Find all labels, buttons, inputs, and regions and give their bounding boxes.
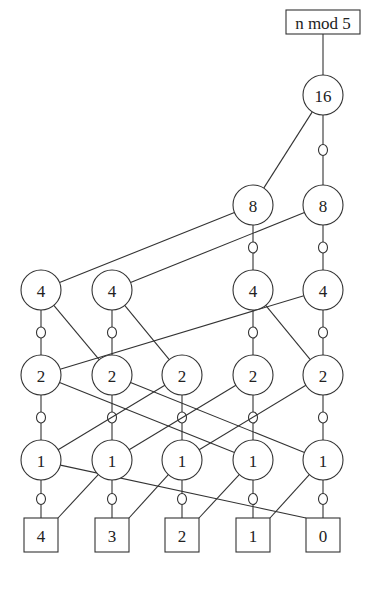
node-label: 1 [249,452,258,471]
n-mod-5-box: n mod 5 [286,10,360,34]
level-8-node-col3: 8 [233,185,273,225]
node-label: 1 [249,527,258,546]
negation-marker-icon [249,494,258,505]
negation-marker-icon [319,327,328,338]
node-label: 4 [108,282,117,301]
output-box-0: 0 [306,518,340,552]
then-edge [131,382,305,452]
node-label: 4 [319,282,328,301]
output-box-3: 3 [95,518,129,552]
node-label: 16 [315,87,332,106]
negation-marker-icon [319,242,328,253]
node-label: 0 [319,527,328,546]
negation-marker-icon [178,494,187,505]
node-label: 2 [108,367,117,386]
level-4-node-col4: 4 [303,270,343,310]
level-2-node-col1: 2 [92,355,132,395]
level-8-node-col4: 8 [303,185,343,225]
level-1-node-col4: 1 [303,440,343,480]
node-16: 16 [303,75,343,115]
negation-marker-icon [319,145,328,156]
node-label: 2 [249,367,258,386]
node-label: 3 [108,527,117,546]
then-edge [58,475,98,518]
node-label: 2 [319,367,328,386]
level-2-node-col0: 2 [21,355,61,395]
node-label: 2 [178,367,187,386]
then-edge [266,305,311,359]
then-edge [125,305,170,359]
level-2-node-col2: 2 [162,355,202,395]
level-2-node-col3: 2 [233,355,273,395]
node-label: 1 [108,452,117,471]
node-label: 1 [37,452,46,471]
node-label: 2 [37,367,46,386]
negation-marker-icon [319,494,328,505]
level-1-node-col2: 1 [162,440,202,480]
then-edge [264,112,313,188]
level-4-node-col0: 4 [21,270,61,310]
node-label: 2 [178,527,187,546]
negation-marker-icon [249,327,258,338]
level-1-node-col0: 1 [21,440,61,480]
negation-marker-icon [37,494,46,505]
negation-marker-icon [37,327,46,338]
negation-marker-icon [319,412,328,423]
node-label: 1 [319,452,328,471]
nodes: n mod 516884444222221111143210 [21,10,360,552]
then-edge [54,305,99,359]
negation-marker-icon [108,494,117,505]
then-edge [131,212,305,282]
level-1-node-col3: 1 [233,440,273,480]
level-4-node-col1: 4 [92,270,132,310]
output-box-1: 1 [236,518,270,552]
node-label: 8 [319,197,328,216]
node-label: 4 [249,282,258,301]
negation-marker-icon [37,412,46,423]
level-2-node-col4: 2 [303,355,343,395]
node-label: 4 [37,527,46,546]
level-1-node-col1: 1 [92,440,132,480]
then-edge [270,475,309,518]
node-label: n mod 5 [295,14,351,33]
then-edge [60,212,235,282]
level-4-node-col3: 4 [233,270,273,310]
negation-marker-icon [249,242,258,253]
output-box-4: 4 [24,518,58,552]
node-label: 8 [249,197,258,216]
negation-marker-icon [108,327,117,338]
then-edge [60,382,235,452]
node-label: 1 [178,452,187,471]
bdd-diagram: n mod 516884444222221111143210 [0,0,380,595]
node-label: 4 [37,282,46,301]
output-box-2: 2 [165,518,199,552]
